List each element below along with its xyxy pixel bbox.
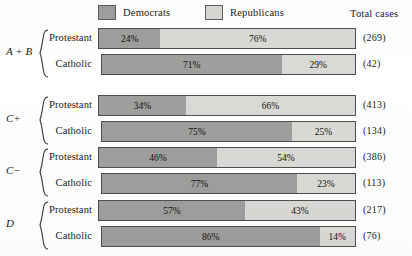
chart-row: Catholic 75% 25% (134): [0, 121, 412, 143]
chart-group: C+ Protestant 34% 66% (413) Catholic 75%…: [0, 95, 412, 147]
bar-segment-republicans: 66%: [186, 96, 355, 115]
row-label: Protestant: [30, 99, 92, 110]
total-cases-value: (76): [363, 230, 380, 241]
stacked-bar: 46% 54%: [98, 147, 356, 168]
legend-swatch-democrats: [98, 5, 116, 20]
chart-legend: Democrats Republicans Total cases: [0, 2, 412, 24]
legend-item-republicans: Republicans: [205, 5, 284, 20]
row-label: Protestant: [30, 204, 92, 215]
bar-segment-democrats: 71%: [102, 55, 282, 74]
bar-segment-democrats: 34%: [99, 96, 186, 115]
chart-row: Catholic 77% 23% (113): [0, 173, 412, 195]
stacked-bar: 71% 29%: [101, 54, 356, 75]
bar-segment-republicans: 23%: [297, 174, 355, 193]
total-cases-column-header: Total cases: [350, 8, 398, 19]
bar-segment-democrats: 75%: [102, 122, 292, 141]
bar-segment-democrats: 24%: [99, 29, 160, 48]
bar-segment-republicans: 14%: [320, 227, 355, 246]
chart-row: Protestant 57% 43% (217): [0, 200, 412, 222]
bar-segment-democrats: 77%: [102, 174, 297, 193]
bar-segment-democrats: 86%: [102, 227, 320, 246]
bar-segment-republicans: 76%: [160, 29, 355, 48]
row-label: Catholic: [30, 58, 92, 69]
stacked-bar-chart: Democrats Republicans Total cases A + B …: [0, 0, 412, 256]
chart-row: Protestant 24% 76% (269): [0, 28, 412, 50]
bar-segment-republicans: 29%: [282, 55, 355, 74]
bar-segment-democrats: 46%: [99, 148, 217, 167]
stacked-bar: 57% 43%: [98, 200, 356, 221]
legend-swatch-republicans: [205, 5, 223, 20]
stacked-bar: 34% 66%: [98, 95, 356, 116]
chart-row: Protestant 34% 66% (413): [0, 95, 412, 117]
legend-label-republicans: Republicans: [230, 7, 284, 18]
bar-segment-republicans: 54%: [217, 148, 355, 167]
total-cases-value: (42): [363, 58, 380, 69]
chart-group: D Protestant 57% 43% (217) Catholic 86% …: [0, 200, 412, 252]
total-cases-value: (386): [363, 151, 386, 162]
row-label: Catholic: [30, 177, 92, 188]
bar-segment-republicans: 43%: [245, 201, 355, 220]
bar-segment-democrats: 57%: [99, 201, 245, 220]
chart-group: A + B Protestant 24% 76% (269) Catholic …: [0, 28, 412, 80]
row-label: Catholic: [30, 125, 92, 136]
chart-row: Protestant 46% 54% (386): [0, 147, 412, 169]
legend-item-democrats: Democrats: [98, 5, 170, 20]
total-cases-value: (269): [363, 32, 386, 43]
legend-label-democrats: Democrats: [123, 7, 170, 18]
bar-segment-republicans: 25%: [292, 122, 355, 141]
total-cases-value: (134): [363, 125, 386, 136]
total-cases-value: (413): [363, 99, 386, 110]
stacked-bar: 24% 76%: [98, 28, 356, 49]
chart-row: Catholic 71% 29% (42): [0, 54, 412, 76]
row-label: Protestant: [30, 151, 92, 162]
total-cases-value: (113): [363, 177, 385, 188]
stacked-bar: 75% 25%: [101, 121, 356, 142]
row-label: Catholic: [30, 230, 92, 241]
total-cases-value: (217): [363, 204, 386, 215]
row-label: Protestant: [30, 32, 92, 43]
chart-row: Catholic 86% 14% (76): [0, 226, 412, 248]
stacked-bar: 86% 14%: [101, 226, 356, 247]
stacked-bar: 77% 23%: [101, 173, 356, 194]
chart-group: C− Protestant 46% 54% (386) Catholic 77%…: [0, 147, 412, 199]
